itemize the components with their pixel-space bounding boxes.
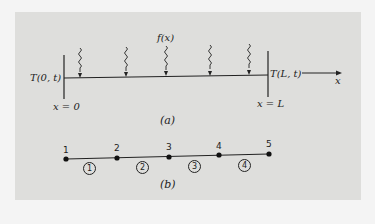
node-label-3: 3 xyxy=(166,142,172,152)
right-boundary-label: T(L, t) xyxy=(270,68,302,79)
x-axis-label: x xyxy=(335,75,341,86)
node-label-2: 2 xyxy=(114,143,120,153)
element-label-2: 2 xyxy=(136,161,149,174)
diagram-lines xyxy=(0,0,375,224)
source-label: f(x) xyxy=(157,32,174,43)
left-position-label: x = 0 xyxy=(53,101,80,112)
heat-source-arrows xyxy=(79,44,251,72)
element-label-1: 1 xyxy=(83,162,96,175)
node-label-4: 4 xyxy=(216,141,222,151)
node-label-1: 1 xyxy=(63,145,69,155)
element-label-3: 3 xyxy=(188,160,201,173)
left-boundary-label: T(0, t) xyxy=(30,72,61,83)
caption-a: (a) xyxy=(160,114,175,127)
element-label-4: 4 xyxy=(238,159,251,172)
right-position-label: x = L xyxy=(257,98,284,109)
caption-b: (b) xyxy=(160,178,176,191)
node-label-5: 5 xyxy=(266,139,272,149)
